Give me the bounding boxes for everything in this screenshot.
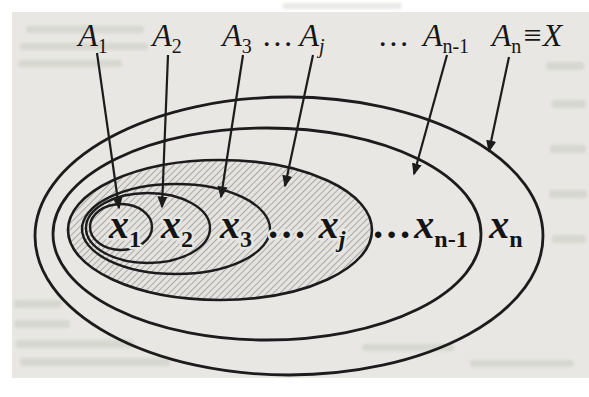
set-label-an-equiv-x: An≡X [490, 17, 564, 57]
top-ellipsis-dots-2: … [380, 17, 408, 53]
inner-ellipsis-dots-1: … [268, 202, 308, 247]
nested-sets-figure-canvas: A1 A2 A3 … Aj … An-1 An≡X x1 x2 x3 … xj … [0, 0, 589, 397]
scanned-book-figure: A1 A2 A3 … Aj … An-1 An≡X x1 x2 x3 … xj … [0, 0, 589, 397]
top-ellipsis-dots-1: … [264, 17, 292, 53]
inner-ellipsis-dots-2: … [373, 202, 413, 247]
